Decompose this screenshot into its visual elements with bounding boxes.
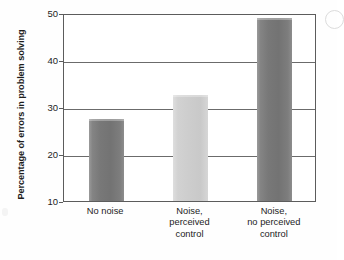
x-axis-label-line: Noise, <box>229 206 319 217</box>
y-tick-label-10: 10 <box>36 197 58 207</box>
y-axis-title: Percentage of errors in problem solving <box>14 7 28 222</box>
x-axis-label-line: no perceived <box>229 217 319 228</box>
y-tick-label-20: 20 <box>36 150 58 160</box>
bar-highlight <box>257 18 292 20</box>
x-axis-label-line: Noise, <box>145 206 235 217</box>
x-axis-label-2: Noise,perceivedcontrol <box>145 206 235 240</box>
x-axis-label-line: control <box>145 229 235 240</box>
x-axis-labels: No noiseNoise,perceivedcontrolNoise,no p… <box>63 206 316 254</box>
x-axis-label-line: perceived <box>145 217 235 228</box>
scan-artifact-arc <box>325 10 344 29</box>
bar-body <box>173 95 208 201</box>
scan-artifact-smudge <box>2 208 8 216</box>
bar-3 <box>257 18 292 201</box>
bar-body <box>257 18 292 201</box>
bar-highlight <box>173 95 208 97</box>
x-axis-label-line: control <box>229 229 319 240</box>
y-tick-label-50: 50 <box>36 9 58 19</box>
bar-body <box>89 119 124 201</box>
bar-1 <box>89 119 124 201</box>
plot-area <box>63 14 316 202</box>
bar-highlight <box>89 119 124 121</box>
y-tick-label-30: 30 <box>36 103 58 113</box>
x-axis-label-1: No noise <box>60 206 150 217</box>
bar-2 <box>173 95 208 201</box>
x-axis-label-line: No noise <box>60 206 150 217</box>
x-axis-label-3: Noise,no perceivedcontrol <box>229 206 319 240</box>
y-tick-label-40: 40 <box>36 56 58 66</box>
